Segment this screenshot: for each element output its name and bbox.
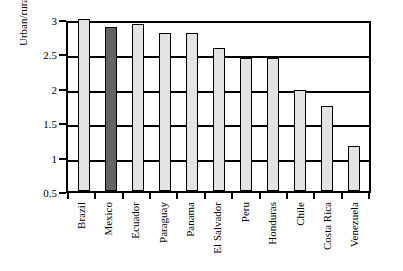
x-axis-labels: BrazilMexicoEcuadorParaguayPanamaEl Salv…: [66, 200, 371, 270]
y-tick-label: 0.5: [43, 188, 57, 199]
x-tick-mark: [204, 193, 206, 199]
y-axis-ticks: 0.511.522.53: [0, 0, 66, 271]
x-tick-label-text: Honduras: [267, 202, 278, 245]
x-tick-mark: [313, 193, 315, 199]
x-tick-label-text: Peru: [240, 202, 251, 222]
x-tick-label: Venezuela: [355, 157, 366, 202]
x-tick-label-text: Mexico: [103, 202, 114, 236]
x-tick-label: Panama: [191, 167, 202, 202]
bar-chart-figure: Urban/rural income 0.511.522.53 BrazilMe…: [0, 0, 403, 271]
x-tick-mark: [67, 193, 69, 199]
x-tick-mark: [94, 193, 96, 199]
x-tick-label: Ecuador: [136, 165, 147, 202]
x-label-slot: Peru: [232, 200, 259, 270]
x-tick-label: Honduras: [273, 159, 284, 202]
x-tick-mark: [176, 193, 178, 199]
x-label-slot: Venezuela: [342, 200, 369, 270]
y-tick-label: 2.5: [43, 50, 57, 61]
y-tick-mark: [59, 89, 66, 91]
x-label-slot: Brazil: [68, 200, 95, 270]
x-tick-label: Brazil: [82, 175, 93, 202]
y-tick-mark: [59, 54, 66, 56]
x-tick-mark: [122, 193, 124, 199]
x-tick-mark: [259, 193, 261, 199]
x-tick-mark: [368, 193, 370, 199]
y-tick-mark: [59, 123, 66, 125]
x-tick-label-text: Venezuela: [349, 202, 360, 247]
x-tick-label: Peru: [246, 182, 257, 202]
x-label-slot: Ecuador: [123, 200, 150, 270]
bar-brazil[interactable]: [78, 19, 90, 191]
x-tick-label-text: Costa Rica: [322, 202, 333, 250]
x-label-slot: Mexico: [95, 200, 122, 270]
x-label-slot: Honduras: [260, 200, 287, 270]
x-tick-mark: [286, 193, 288, 199]
x-label-slot: El Salvador: [205, 200, 232, 270]
bar-slot: [178, 23, 205, 191]
x-label-slot: Chile: [287, 200, 314, 270]
y-tick-mark: [59, 192, 66, 194]
bar-slot: [286, 23, 313, 191]
x-tick-label-text: Ecuador: [130, 202, 141, 239]
x-tick-label-text: Panama: [185, 202, 196, 237]
x-tick-mark: [341, 193, 343, 199]
bar-slot: [232, 23, 259, 191]
x-label-slot: Paraguay: [150, 200, 177, 270]
y-tick-label: 1: [52, 153, 58, 164]
x-label-slot: Panama: [177, 200, 204, 270]
x-tick-label: Chile: [301, 178, 312, 202]
x-tick-label-text: Chile: [294, 202, 305, 226]
x-tick-label: Paraguay: [164, 161, 175, 202]
y-tick-label: 2: [52, 84, 58, 95]
x-tick-label: El Salvador: [218, 150, 229, 202]
x-tick-label-text: El Salvador: [212, 202, 223, 254]
y-tick-mark: [59, 20, 66, 22]
x-tick-mark: [231, 193, 233, 199]
y-tick-label: 3: [52, 16, 58, 27]
x-tick-mark: [149, 193, 151, 199]
y-tick-mark: [59, 158, 66, 160]
bar-chile[interactable]: [294, 90, 306, 191]
x-tick-label-text: Brazil: [76, 202, 87, 229]
bar-mexico[interactable]: [105, 27, 117, 191]
bar-slot: [97, 23, 124, 191]
x-tick-label-text: Paraguay: [158, 202, 169, 243]
x-tick-label: Mexico: [109, 168, 120, 202]
x-label-slot: Costa Rica: [314, 200, 341, 270]
y-tick-label: 1.5: [43, 119, 57, 130]
bar-slot: [70, 23, 97, 191]
bar-peru[interactable]: [240, 58, 252, 191]
x-tick-label: Costa Rica: [328, 154, 339, 202]
